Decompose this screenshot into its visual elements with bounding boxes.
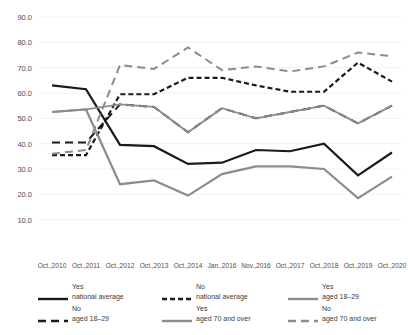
legend-swatch <box>38 287 68 291</box>
legend-item[interactable]: Nonational average <box>162 283 288 305</box>
y-axis-tick-label: 90.0 <box>17 13 32 22</box>
line-chart: 10.020.030.040.050.060.070.080.090.0 Oct… <box>0 0 408 335</box>
legend-item[interactable]: Yesaged 18–29 <box>288 283 404 305</box>
legend-label-primary: Yes <box>72 283 83 290</box>
y-axis-tick-label: 40.0 <box>17 139 32 148</box>
chart-canvas <box>38 17 402 245</box>
legend-swatch-icon <box>162 319 192 323</box>
legend-column-2: Nonational averageYesaged 70 and over <box>162 283 288 331</box>
legend-label-secondary: national average <box>72 293 124 300</box>
legend-item[interactable]: Noaged 70 and over <box>288 305 404 327</box>
legend-label-primary: Yes <box>196 305 207 312</box>
legend-column-1: Yesnational averageNoaged 18–29 <box>38 283 162 331</box>
legend-swatch <box>162 287 192 291</box>
x-axis-tick-label: Oct.,2019 <box>344 262 373 269</box>
x-axis-tick-label: Oct.,2012 <box>106 262 135 269</box>
legend-label-primary: No <box>72 305 81 312</box>
y-axis-tick-label: 80.0 <box>17 38 32 47</box>
chart-legend: Yesnational averageNoaged 18–29 Nonation… <box>38 283 404 331</box>
y-axis-tick-label: 20.0 <box>17 190 32 199</box>
legend-label-secondary: aged 18–29 <box>72 315 109 322</box>
legend-swatch-icon <box>288 319 318 323</box>
plot-area <box>38 17 402 245</box>
x-axis-labels: Oct.,2010Oct.,2011Oct.,2012Oct.,2013Oct.… <box>38 248 402 266</box>
y-axis-tick-label: 60.0 <box>17 89 32 98</box>
legend-item[interactable]: Yesaged 70 and over <box>162 305 288 327</box>
y-axis-tick-label: 50.0 <box>17 114 32 123</box>
y-axis-tick-label: 30.0 <box>17 165 32 174</box>
series-line <box>52 85 392 175</box>
legend-label-primary: Yes <box>322 283 333 290</box>
x-axis-tick-label: Oct.,2010 <box>38 262 67 269</box>
legend-swatch-icon <box>38 297 68 301</box>
x-axis-tick-label: Nov.,2016 <box>241 262 271 269</box>
x-axis-tick-label: Oct.,2011 <box>72 262 100 269</box>
legend-label-secondary: aged 18–29 <box>322 293 359 300</box>
legend-swatch <box>162 309 192 313</box>
legend-item[interactable]: Yesnational average <box>38 283 162 305</box>
x-axis-tick-label: Oct.,2014 <box>174 262 203 269</box>
y-axis-tick-label: 70.0 <box>17 63 32 72</box>
x-axis-tick-label: Oct.,2020 <box>378 262 407 269</box>
x-axis-tick-label: Oct.,2018 <box>310 262 339 269</box>
legend-swatch-icon <box>162 297 192 301</box>
legend-label-secondary: national average <box>196 293 248 300</box>
x-axis-tick-label: Oct.,2017 <box>276 262 305 269</box>
x-axis-tick-label: Jan.,2016 <box>208 262 237 269</box>
legend-swatch <box>38 309 68 313</box>
legend-item[interactable]: Noaged 18–29 <box>38 305 162 327</box>
legend-label-secondary: aged 70 and over <box>196 315 251 322</box>
legend-label-secondary: aged 70 and over <box>322 315 377 322</box>
series-line <box>52 104 392 142</box>
series-lines <box>52 47 392 198</box>
legend-label-primary: No <box>322 305 331 312</box>
x-axis-tick-label: Oct.,2013 <box>140 262 169 269</box>
y-axis-tick-label: 10.0 <box>17 215 32 224</box>
y-axis-labels: 10.020.030.040.050.060.070.080.090.0 <box>0 17 36 245</box>
legend-swatch <box>288 309 318 313</box>
legend-column-3: Yesaged 18–29Noaged 70 and over <box>288 283 404 331</box>
legend-swatch-icon <box>38 319 68 323</box>
legend-swatch-icon <box>288 297 318 301</box>
legend-label-primary: No <box>196 283 205 290</box>
legend-swatch <box>288 287 318 291</box>
series-line <box>52 47 392 153</box>
